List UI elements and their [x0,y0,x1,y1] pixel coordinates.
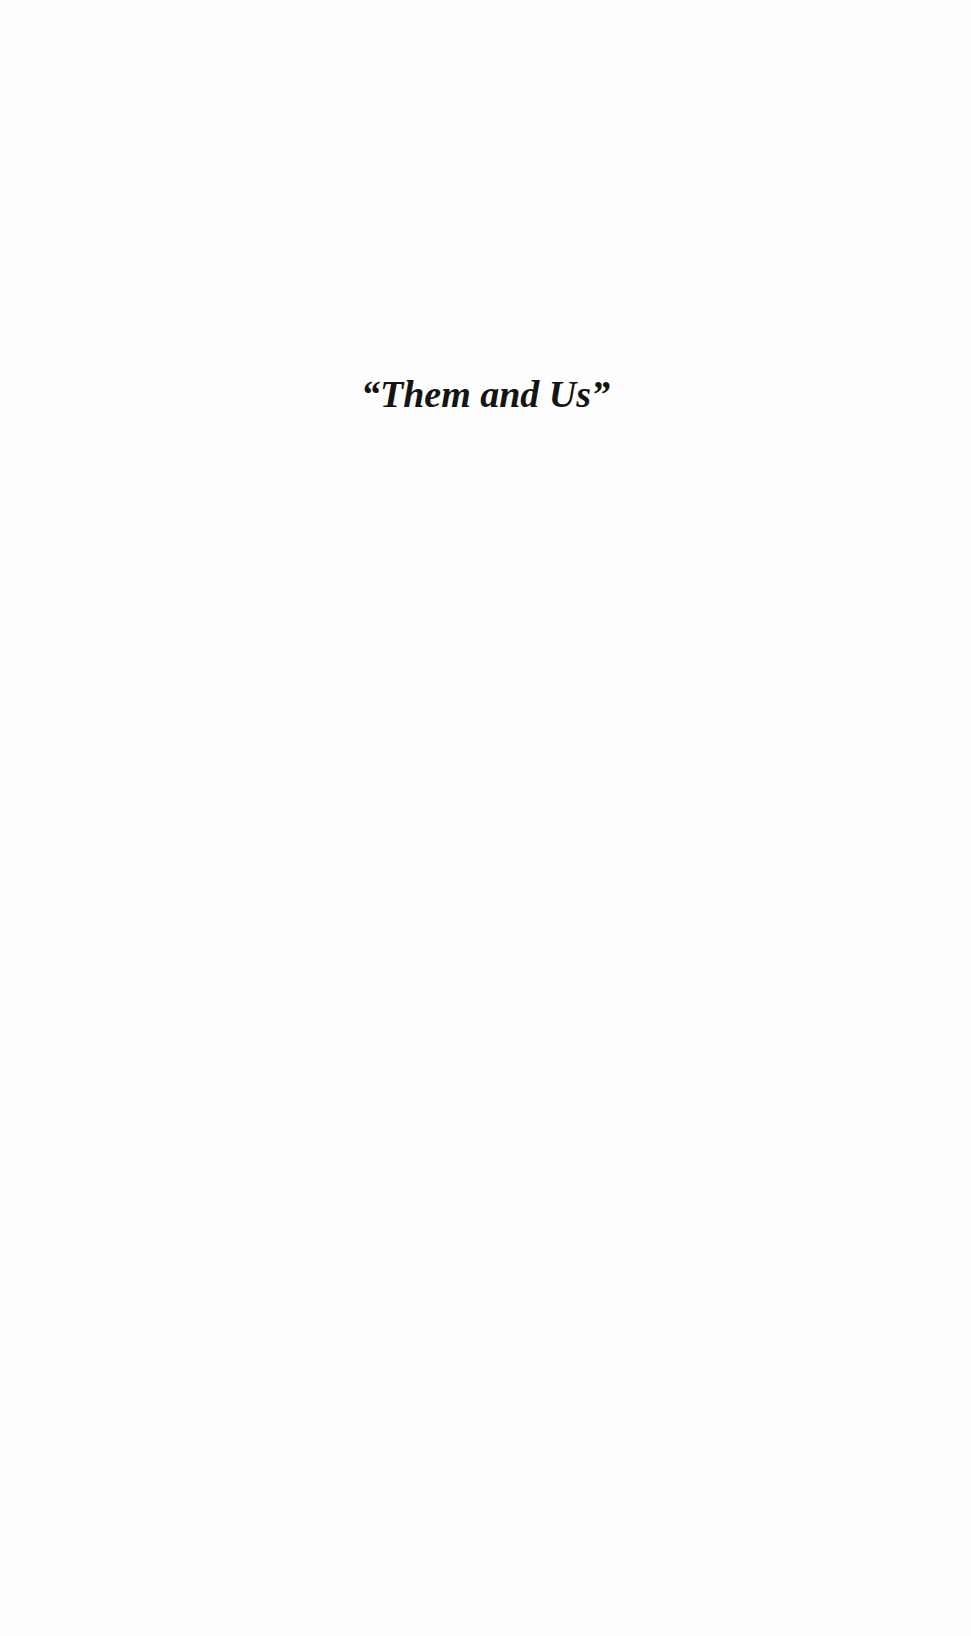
page-title: “Them and Us” [0,372,971,416]
book-page: “Them and Us” [0,0,971,1636]
